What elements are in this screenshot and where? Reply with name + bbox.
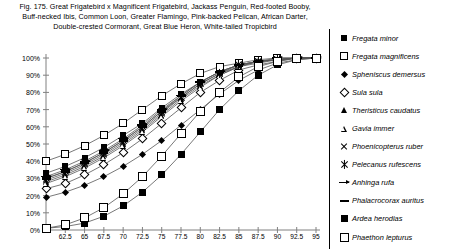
chart-legend: Fregata minorFregata magnificensSphenisc… bbox=[329, 29, 454, 249]
legend-item[interactable]: Phaethon lepturus bbox=[337, 228, 454, 246]
legend-item-label: Ardea herodias bbox=[352, 214, 402, 223]
legend-item[interactable]: Phalacrocorax auritus bbox=[337, 192, 454, 210]
legend-item-label: Fregata minor bbox=[352, 34, 398, 43]
legend-item-label: Fregata magnificens bbox=[352, 52, 419, 61]
legend-item[interactable]: Gavia immer bbox=[337, 119, 454, 137]
legend-item-label: Phaethon lepturus bbox=[352, 233, 412, 242]
legend-item-label: Gavia immer bbox=[352, 124, 394, 133]
caption-line-1: Fig. 175. Great Frigatebird x Magnificen… bbox=[0, 2, 330, 12]
diamond-filled-icon bbox=[337, 67, 351, 81]
caption-line-2: Buff-necked Ibis, Common Loon, Greater F… bbox=[0, 12, 330, 22]
legend-item[interactable]: Fregata minor bbox=[337, 29, 454, 47]
square-open-icon bbox=[337, 49, 351, 63]
square-filled-lg-icon bbox=[337, 212, 351, 226]
dash-icon bbox=[337, 194, 351, 208]
square-open-lg-icon bbox=[337, 230, 351, 244]
legend-item-label: Sula sula bbox=[352, 88, 383, 97]
triangle-open-icon bbox=[337, 122, 351, 136]
legend-item[interactable]: Spheniscus demersus bbox=[337, 65, 454, 83]
legend-item-label: Phoenicopterus ruber bbox=[352, 142, 423, 151]
legend-item-label: Pelecanus rufescens bbox=[352, 160, 421, 169]
legend-item[interactable]: Pelecanus rufescens bbox=[337, 156, 454, 174]
legend-item-label: Theristicus caudatus bbox=[352, 106, 420, 115]
legend-item[interactable]: Fregata magnificens bbox=[337, 47, 454, 65]
legend-item-label: Spheniscus demersus bbox=[352, 70, 425, 79]
legend-item[interactable]: Theristicus caudatus bbox=[337, 101, 454, 119]
legend-item[interactable]: Sula sula bbox=[337, 83, 454, 101]
legend-item-label: Anhinga rufa bbox=[352, 178, 394, 187]
caption-line-3: Double-crested Cormorant, Great Blue Her… bbox=[0, 22, 330, 32]
diamond-open-icon bbox=[337, 85, 351, 99]
chart-plot-area: 0%10%20%30%40%50%60%70%80%90%100% 62.565… bbox=[0, 46, 322, 249]
square-filled-icon bbox=[337, 31, 351, 45]
asterisk-icon bbox=[337, 158, 351, 172]
x-tick-label: 95 bbox=[301, 233, 331, 240]
arrow-icon bbox=[337, 176, 351, 190]
legend-item[interactable]: Ardea herodias bbox=[337, 210, 454, 228]
legend-item[interactable]: Phoenicopterus ruber bbox=[337, 138, 454, 156]
legend-item[interactable]: Anhinga rufa bbox=[337, 174, 454, 192]
x-icon bbox=[337, 140, 351, 154]
legend-item-label: Phalacrocorax auritus bbox=[352, 196, 424, 205]
x-axis-tick-labels: 62.56567.57072.57577.58082.58587.59092.5… bbox=[0, 46, 322, 249]
triangle-filled-icon bbox=[337, 103, 351, 117]
figure-caption: Fig. 175. Great Frigatebird x Magnificen… bbox=[0, 2, 330, 33]
